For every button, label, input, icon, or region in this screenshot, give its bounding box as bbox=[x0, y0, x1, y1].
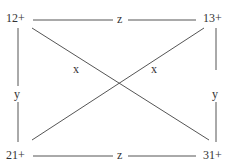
node-top-left: 12+ bbox=[6, 11, 25, 25]
node-top-right: 13+ bbox=[203, 11, 222, 25]
top-edge-label: z bbox=[117, 12, 122, 26]
bottom-edge-label: z bbox=[117, 148, 122, 162]
right-edge-label: y bbox=[212, 87, 218, 101]
diagonal-main-label: x bbox=[73, 62, 79, 76]
node-bottom-right: 31+ bbox=[203, 148, 222, 162]
square-diagram: 12+ 13+ 21+ 31+ z z y y x x bbox=[0, 0, 233, 166]
node-bottom-left: 21+ bbox=[6, 148, 25, 162]
left-edge-label: y bbox=[14, 87, 20, 101]
diagonal-anti-label: x bbox=[151, 62, 157, 76]
